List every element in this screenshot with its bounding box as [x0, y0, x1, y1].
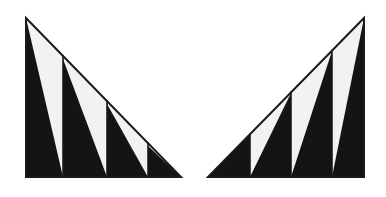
figure-canvas — [0, 0, 386, 197]
